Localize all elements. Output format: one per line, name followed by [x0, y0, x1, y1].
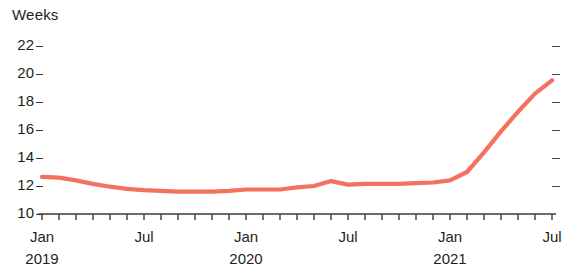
x-axis [38, 214, 556, 220]
plot-area [0, 0, 564, 277]
line-chart: Weeks 10121416182022 Jan2019JulJan2020Ju… [0, 0, 564, 277]
series-line [42, 80, 552, 191]
data-series-group [42, 80, 552, 191]
